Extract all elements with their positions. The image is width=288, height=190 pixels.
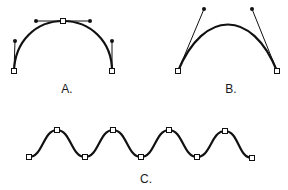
direction-point-icon — [34, 19, 38, 23]
bezier-curve-c — [29, 130, 252, 158]
anchor-point-icon — [195, 155, 200, 160]
figure-label-b: B. — [225, 82, 236, 96]
anchor-point-icon — [139, 155, 144, 160]
anchor-point-icon — [275, 69, 280, 74]
direction-point-icon — [110, 39, 114, 43]
direction-point-icon — [250, 7, 254, 11]
anchor-point-icon — [61, 19, 66, 24]
anchor-point-icon — [27, 155, 32, 160]
anchor-point-icon — [110, 69, 115, 74]
bezier-curve-a — [14, 21, 112, 71]
bezier-curve-b — [178, 25, 277, 72]
figure-label-c: C. — [140, 172, 152, 186]
anchor-point-icon — [250, 156, 255, 161]
anchor-point-icon — [176, 69, 181, 74]
anchor-point-icon — [223, 129, 228, 134]
anchor-point-icon — [55, 128, 60, 133]
direction-point-icon — [202, 7, 206, 11]
anchor-point-icon — [111, 128, 116, 133]
figure-label-a: A. — [61, 82, 72, 96]
anchor-point-icon — [83, 155, 88, 160]
direction-point-icon — [13, 39, 17, 43]
bezier-diagram-canvas — [0, 0, 288, 190]
anchor-point-icon — [12, 69, 17, 74]
anchor-point-icon — [167, 128, 172, 133]
direction-point-icon — [88, 19, 92, 23]
